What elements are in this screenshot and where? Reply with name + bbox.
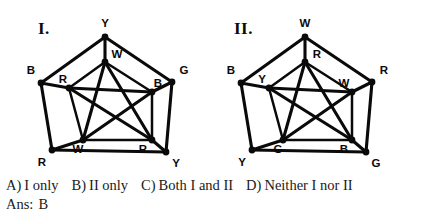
choice-d-text: Neither I nor II (264, 177, 352, 193)
outer-pentagon-edge (366, 82, 372, 152)
outer-pentagon-edge (41, 83, 52, 150)
outer-vertex-1 (169, 79, 176, 86)
outer-vertex-label-3: R (38, 156, 47, 168)
choice-a-text: I only (24, 177, 58, 193)
figure-1-title: I. (38, 19, 50, 38)
question-figure-page: I. YGYRBWBRWR II. WRGYBRWBGY A)I onlyB)I… (0, 0, 435, 214)
outer-vertex-0 (102, 34, 109, 41)
diagram-figure-2: II. WRGYBRWBGY (218, 0, 435, 176)
answer-row: Ans:B (6, 195, 434, 213)
inner-vertex-1 (149, 89, 156, 96)
inner-vertex-0 (102, 59, 109, 66)
figure-2-title: II. (234, 19, 253, 38)
outer-vertex-label-0: Y (101, 17, 109, 29)
outer-vertex-label-0: W (300, 17, 311, 29)
choice-a-letter: A) (6, 177, 21, 193)
inner-vertex-label-1: W (339, 77, 350, 89)
outer-pentagon-edge (241, 83, 252, 150)
outer-pentagon-edge (41, 37, 105, 83)
inner-vertex-label-4: Y (258, 73, 266, 85)
outer-pentagon-edge (166, 82, 172, 152)
inner-vertex-4 (66, 85, 73, 92)
diagram-figure-1: I. YGYRBWBRWR (0, 0, 218, 176)
answer-value: B (38, 196, 48, 212)
pentagram-edge (305, 62, 352, 140)
choice-d[interactable]: D)Neither I nor II (246, 176, 352, 194)
inner-vertex-label-0: W (112, 48, 123, 60)
outer-vertex-label-1: R (380, 64, 389, 76)
outer-vertex-0 (302, 34, 309, 41)
choice-b[interactable]: B)II only (72, 176, 129, 194)
outer-pentagon-edge (52, 150, 166, 152)
outer-vertex-label-1: G (180, 64, 189, 76)
outer-vertex-2 (163, 149, 170, 156)
outer-vertex-2 (363, 149, 370, 156)
inner-vertex-label-2: R (139, 143, 148, 155)
outer-vertex-4 (238, 80, 245, 87)
outer-vertex-3 (49, 147, 56, 154)
inner-vertex-label-0: R (313, 48, 322, 60)
choice-c-text: Both I and II (159, 177, 234, 193)
inner-vertex-2 (349, 137, 356, 144)
inner-vertex-label-1: B (154, 77, 162, 89)
outer-vertex-label-2: G (372, 157, 381, 169)
outer-vertex-label-3: Y (238, 156, 246, 168)
outer-pentagon-edge (241, 37, 305, 83)
inner-vertex-2 (149, 137, 156, 144)
inner-vertex-1 (349, 89, 356, 96)
inner-vertex-4 (266, 85, 273, 92)
choice-c-letter: C) (141, 177, 156, 193)
outer-vertex-3 (249, 147, 256, 154)
choices-row: A)I onlyB)II onlyC)Both I and IID)Neithe… (6, 176, 434, 194)
outer-pentagon-edge (252, 150, 366, 152)
inner-vertex-label-3: G (274, 143, 283, 155)
pentagram-edge (69, 88, 152, 92)
choice-b-text: II only (89, 177, 128, 193)
inner-vertex-label-4: R (59, 73, 68, 85)
choice-c[interactable]: C)Both I and II (141, 176, 233, 194)
pentagram-edge (105, 62, 152, 140)
outer-vertex-4 (38, 80, 45, 87)
inner-pentagon-edge (105, 62, 152, 92)
choice-d-letter: D) (246, 177, 261, 193)
answer-label: Ans: (6, 196, 33, 212)
choice-a[interactable]: A)I only (6, 176, 59, 194)
outer-vertex-1 (369, 79, 376, 86)
inner-vertex-0 (302, 59, 309, 66)
outer-vertex-label-4: B (227, 64, 235, 76)
inner-vertex-label-2: B (340, 143, 348, 155)
choice-b-letter: B) (72, 177, 87, 193)
outer-vertex-label-4: B (27, 64, 35, 76)
inner-vertex-label-3: W (73, 143, 84, 155)
answer-block: A)I onlyB)II onlyC)Both I and IID)Neithe… (6, 176, 434, 213)
outer-vertex-label-2: Y (172, 157, 180, 169)
